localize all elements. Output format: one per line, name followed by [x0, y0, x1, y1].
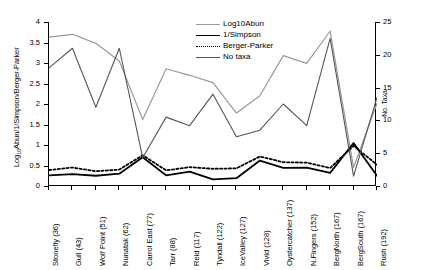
x-axis-category-label: Nunatak (62) — [121, 223, 130, 266]
x-axis-category-label: BergNorth (167) — [332, 212, 341, 266]
y-axis-left-tick-label: 3.5 — [6, 38, 40, 47]
y-axis-right-tick-label: 5 — [383, 148, 387, 157]
x-axis-tickmark — [118, 186, 119, 190]
chart-container: Log10Abun/1/Simpson/Berger-Parker No. Ta… — [0, 0, 435, 270]
y-axis-left-tick-label: 4 — [6, 17, 40, 26]
x-axis-category-label: IceValley (127) — [238, 217, 247, 266]
x-axis-tickmark — [95, 186, 96, 190]
x-axis-category-label: Rush (192) — [379, 229, 388, 266]
x-axis-tickmark — [48, 186, 49, 190]
legend-swatch-icon — [196, 42, 220, 50]
x-axis-category-label: Vivid (128) — [262, 230, 271, 266]
x-axis-category-label: Stonefly (36) — [51, 223, 60, 266]
y-axis-right-tick-label: 0 — [383, 181, 387, 190]
y-axis-left-tick-label: 0 — [6, 181, 40, 190]
legend-item-label: 1/Simpson — [223, 30, 261, 39]
x-axis-tickmark — [71, 186, 72, 190]
legend-item-label: No taxa — [223, 52, 251, 61]
series-line-berger-parker — [49, 146, 377, 171]
y-axis-right-tick-label: 25 — [383, 17, 391, 26]
y-axis-right-tick-label: 20 — [383, 50, 391, 59]
y-axis-left-tick-label: 1 — [6, 140, 40, 149]
x-axis-tickmark — [142, 186, 143, 190]
x-axis-tickmark — [329, 186, 330, 190]
x-axis-tickmark — [212, 186, 213, 190]
legend-item-1-simpson[interactable]: 1/Simpson — [196, 29, 273, 40]
x-axis-category-label: Tarr (88) — [168, 238, 177, 266]
y-axis-left-tick-label: 1.5 — [6, 120, 40, 129]
y-axis-left-tick-label: 2.5 — [6, 79, 40, 88]
chart-legend: Log10Abun1/SimpsonBerger-ParkerNo taxa — [196, 18, 273, 62]
x-axis-tickmark — [189, 186, 190, 190]
series-line-1-simpson — [49, 143, 377, 179]
legend-item-label: Log10Abun — [223, 19, 264, 28]
x-axis-tickmark — [165, 186, 166, 190]
x-axis-tickmark — [282, 186, 283, 190]
y-axis-left-tick-label: 3 — [6, 58, 40, 67]
x-axis-tickmark — [306, 186, 307, 190]
x-axis-category-label: BergSouth (167) — [356, 211, 365, 266]
legend-swatch-icon — [196, 20, 220, 28]
x-axis-category-label: Gull (43) — [74, 237, 83, 266]
x-axis-category-label: Wolf Point (51) — [98, 217, 107, 266]
x-axis-category-label: Oystercatcher (137) — [285, 200, 294, 266]
x-axis-tickmark — [376, 186, 377, 190]
x-axis-category-label: Carrol East (77) — [145, 213, 154, 266]
x-axis-tickmark — [353, 186, 354, 190]
y-axis-left-tick-label: 2 — [6, 99, 40, 108]
y-axis-right-tick-label: 10 — [383, 115, 391, 124]
x-axis-tickmark — [259, 186, 260, 190]
x-axis-category-label: N.Fingers (152) — [309, 214, 318, 266]
x-axis-category-label: Reid (117) — [192, 232, 201, 266]
legend-item-no-taxa[interactable]: No taxa — [196, 51, 273, 62]
y-axis-left-title-subscript: 10 — [16, 149, 22, 155]
y-axis-left-tick-label: 0.5 — [6, 161, 40, 170]
legend-item-label: Berger-Parker — [223, 41, 273, 50]
legend-swatch-icon — [196, 53, 220, 61]
legend-item-log10abun[interactable]: Log10Abun — [196, 18, 273, 29]
y-axis-right-title: No. Taxa — [381, 72, 388, 136]
legend-item-berger-parker[interactable]: Berger-Parker — [196, 40, 273, 51]
x-axis-tickmark — [235, 186, 236, 190]
y-axis-right-tick-label: 15 — [383, 83, 391, 92]
legend-swatch-icon — [196, 31, 220, 39]
x-axis-category-label: Tyndall (122) — [215, 223, 224, 266]
